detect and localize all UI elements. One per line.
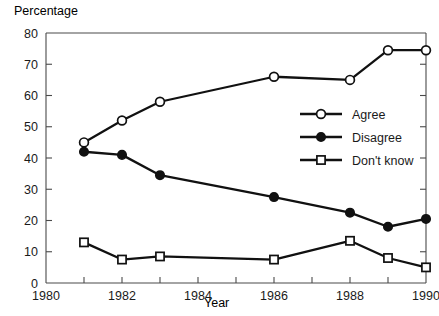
- data-point-marker: [346, 208, 354, 216]
- data-point-marker: [156, 171, 164, 179]
- y-tick-label: 60: [24, 89, 38, 103]
- data-point-marker: [422, 263, 430, 271]
- x-axis-ticks: 198019821984198619881990: [32, 277, 439, 303]
- y-tick-label: 40: [24, 152, 38, 166]
- series-don-t-know: [80, 237, 430, 272]
- line-chart-plot: 01020304050607080 1980198219841986198819…: [0, 0, 439, 316]
- data-point-marker: [384, 223, 392, 231]
- data-point-marker: [156, 97, 165, 106]
- y-tick-label: 20: [24, 214, 38, 228]
- y-tick-label: 10: [24, 245, 38, 259]
- legend-marker-filled-circle: [317, 133, 325, 141]
- data-point-marker: [118, 116, 127, 125]
- chart-container: Percentage Year 01020304050607080 198019…: [0, 0, 439, 316]
- data-point-marker: [80, 238, 88, 246]
- data-point-marker: [422, 46, 431, 55]
- legend-label: Don't know: [352, 154, 414, 168]
- data-point-marker: [384, 254, 392, 262]
- data-point-marker: [156, 252, 164, 260]
- legend-label: Agree: [352, 108, 385, 122]
- legend-item-disagree[interactable]: Disagree: [300, 131, 402, 145]
- data-point-marker: [384, 46, 393, 55]
- chart-legend: AgreeDisagreeDon't know: [300, 108, 414, 168]
- data-point-marker: [270, 255, 278, 263]
- data-point-marker: [80, 148, 88, 156]
- data-point-marker: [270, 193, 278, 201]
- x-tick-label: 1986: [260, 289, 288, 303]
- legend-item-agree[interactable]: Agree: [300, 108, 385, 122]
- x-tick-label: 1980: [32, 289, 60, 303]
- data-point-marker: [270, 72, 279, 81]
- data-point-marker: [422, 215, 430, 223]
- series-line: [84, 50, 426, 142]
- legend-marker-open-square: [317, 156, 325, 164]
- x-tick-label: 1988: [336, 289, 364, 303]
- x-axis-title: Year: [204, 296, 229, 310]
- data-point-marker: [118, 151, 126, 159]
- data-point-marker: [346, 237, 354, 245]
- data-point-marker: [346, 75, 355, 84]
- data-point-marker: [80, 138, 89, 147]
- y-tick-label: 50: [24, 120, 38, 134]
- legend-marker-open-circle: [317, 110, 326, 119]
- data-point-marker: [118, 255, 126, 263]
- x-tick-label: 1982: [108, 289, 136, 303]
- y-tick-label: 30: [24, 183, 38, 197]
- x-tick-label: 1990: [412, 289, 439, 303]
- series-line: [84, 241, 426, 268]
- y-axis-title: Percentage: [14, 4, 78, 18]
- legend-label: Disagree: [352, 131, 402, 145]
- y-tick-label: 70: [24, 58, 38, 72]
- y-tick-label: 80: [24, 27, 38, 41]
- legend-item-don-t-know[interactable]: Don't know: [300, 154, 414, 168]
